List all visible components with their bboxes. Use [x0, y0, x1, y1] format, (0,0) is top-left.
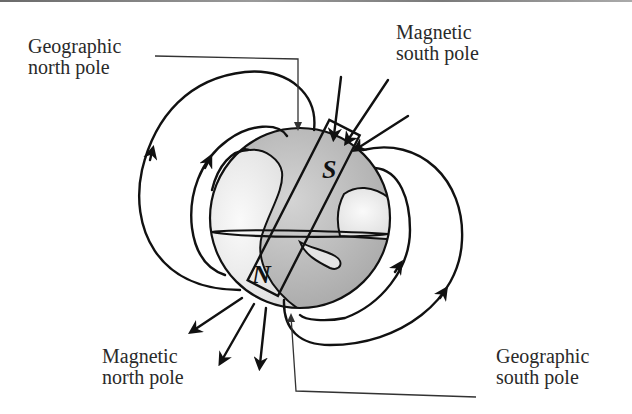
magnet-north-letter: N: [251, 260, 272, 289]
magnet-south-letter: S: [322, 155, 336, 184]
leader-geographic-south: [291, 316, 476, 397]
incoming-field-arrows: [334, 77, 408, 148]
label-magnetic-north-pole: Magnetic north pole: [102, 346, 184, 388]
label-geographic-north-pole: Geographic north pole: [28, 36, 121, 78]
label-geographic-south-pole: Geographic south pole: [496, 346, 589, 388]
leader-geographic-north: [155, 56, 298, 128]
label-magnetic-south-pole: Magnetic south pole: [396, 22, 479, 64]
outgoing-field-arrows: [194, 298, 266, 364]
